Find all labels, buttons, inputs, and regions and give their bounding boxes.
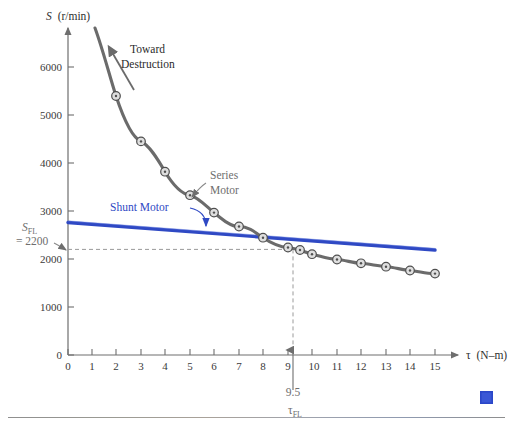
- x-tick-label-0: 0: [65, 360, 71, 372]
- x-tick-label-9: 9: [285, 360, 291, 372]
- taufl-value: 9.5: [286, 386, 301, 398]
- data-point: [284, 243, 293, 252]
- x-tick-label-8: 8: [260, 360, 266, 372]
- data-point: [382, 262, 391, 271]
- y-tick-label-6000: 6000: [40, 61, 63, 73]
- data-point: [308, 250, 317, 259]
- y-tick-label-3000: 3000: [40, 205, 63, 217]
- x-tick-label-14: 14: [405, 360, 417, 372]
- chart-svg: 0 1000 2000 3000 4000 5000 6000 S (r/min…: [0, 0, 513, 428]
- x-axis-symbol: τ: [466, 349, 471, 361]
- x-tick-label-2: 2: [113, 360, 119, 372]
- x-tick-label-5: 5: [187, 360, 193, 372]
- toward-destruction-label-line2: Destruction: [121, 58, 175, 70]
- y-tick-label-1000: 1000: [40, 301, 63, 313]
- data-point: [161, 167, 170, 176]
- y-tick-label-0: 0: [57, 349, 63, 361]
- data-point: [431, 269, 440, 278]
- data-point: [112, 92, 121, 101]
- series-motor-label-line1: Series: [210, 169, 239, 181]
- y-tick-label-5000: 5000: [40, 109, 63, 121]
- y-axis-symbol: S: [46, 10, 52, 22]
- page-divider-rule: [8, 417, 505, 418]
- y-axis-title: S (r/min): [46, 10, 90, 23]
- x-tick-label-7: 7: [236, 360, 242, 372]
- toward-destruction-label-line1: Toward: [130, 43, 165, 55]
- data-point: [259, 233, 268, 242]
- x-tick-label-11: 11: [332, 360, 343, 372]
- shunt-motor-label: Shunt Motor: [110, 201, 169, 213]
- x-tick-label-12: 12: [356, 360, 367, 372]
- x-tick-label-10: 10: [309, 360, 321, 372]
- x-tick-label-4: 4: [162, 360, 168, 372]
- data-point: [235, 222, 244, 231]
- chart-figure: 0 1000 2000 3000 4000 5000 6000 S (r/min…: [0, 0, 513, 428]
- series-motor-label-line2: Motor: [210, 184, 239, 196]
- data-point: [137, 137, 146, 146]
- x-tick-label-1: 1: [89, 360, 95, 372]
- data-point: [210, 208, 219, 217]
- data-point: [333, 255, 342, 264]
- data-point: [357, 259, 366, 268]
- data-point-full-load: [296, 246, 305, 255]
- x-axis-unit: (N–m): [477, 349, 508, 362]
- x-tick-label-13: 13: [381, 360, 393, 372]
- x-tick-label-3: 3: [138, 360, 144, 372]
- x-axis-title: τ (N–m): [466, 349, 507, 362]
- x-tick-label-15: 15: [430, 360, 442, 372]
- sfl-value: = 2200: [16, 235, 49, 247]
- y-tick-label-2000: 2000: [40, 253, 63, 265]
- data-point: [406, 266, 415, 275]
- y-axis-unit: (r/min): [58, 10, 91, 23]
- x-tick-label-6: 6: [211, 360, 217, 372]
- corner-color-swatch: [480, 391, 493, 404]
- y-tick-label-4000: 4000: [40, 157, 63, 169]
